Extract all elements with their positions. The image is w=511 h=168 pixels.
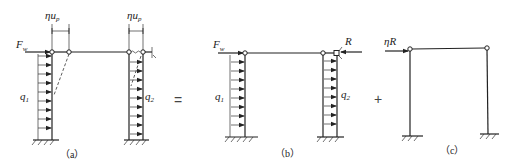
panel-b: Fw q1 R: [212, 35, 362, 159]
fixed-support-right-b: [317, 137, 344, 142]
deflected-shape-left: [54, 54, 69, 95]
distributed-load-q1-arrows-b: [231, 62, 244, 125]
fixed-support-left-b: [225, 137, 258, 142]
hinge-right-b: [321, 51, 325, 55]
spring: [131, 51, 140, 53]
load-label-q1-b: q1: [215, 90, 224, 104]
displacement-dimension-left: ηup: [45, 9, 69, 50]
fixed-support-left: [32, 140, 59, 145]
force-label-fw: Fw: [15, 38, 28, 53]
fixed-support-right: [124, 140, 149, 145]
force-label-fw-b: Fw: [212, 38, 225, 53]
displacement-dimension-right: ηup: [127, 9, 143, 50]
caption-a: （a）: [60, 149, 84, 160]
hinge-right-c: [485, 46, 489, 50]
fixed-support-right-c: [480, 134, 499, 139]
panel-a: ηup ηup Fw q1: [15, 9, 156, 160]
disp-right-label: ηup: [127, 9, 142, 23]
distributed-load-q2-arrows: [130, 62, 142, 134]
hinge-left-displaced: [67, 50, 71, 54]
distributed-load-q2-arrows-b: [324, 61, 336, 124]
reaction-label-r: R: [344, 35, 352, 47]
hinge-left-original: [50, 50, 54, 54]
hinge-left-c: [408, 47, 412, 51]
distributed-load-q1-arrows: [38, 56, 51, 128]
hinge-right-displaced: [141, 50, 145, 54]
load-label-q1: q1: [20, 90, 29, 104]
right-column-c: [487, 50, 488, 134]
fixed-support-left-c: [402, 136, 423, 141]
load-label-q2: q2: [145, 90, 155, 104]
caption-b: （b）: [275, 148, 300, 159]
frame-superposition-diagram: ηup ηup Fw q1: [0, 0, 511, 168]
disp-left-label: ηup: [45, 9, 60, 23]
hinge-left-b: [243, 51, 247, 55]
load-label-q2-b: q2: [341, 88, 351, 102]
restraint-hatch: [339, 47, 342, 51]
plus-sign: +: [374, 91, 382, 107]
hinge-right-original: [127, 50, 131, 54]
caption-c: （c）: [440, 145, 464, 156]
equals-sign: =: [174, 92, 182, 108]
beam-c: [412, 48, 485, 49]
panel-c: ηR （c）: [384, 35, 499, 156]
support-block-b: [334, 51, 339, 56]
force-label-eta-r: ηR: [384, 35, 396, 47]
